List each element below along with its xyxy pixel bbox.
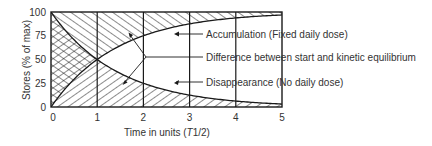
x-tick-label: 3 bbox=[187, 112, 193, 123]
y-axis-tick-labels: 0255075100 bbox=[29, 7, 46, 113]
y-tick-label: 100 bbox=[29, 7, 46, 18]
y-tick-label: 50 bbox=[35, 54, 47, 65]
x-tick-label: 1 bbox=[94, 112, 100, 123]
annotation-disappearance-label: Disappearance (No daily dose) bbox=[206, 77, 343, 88]
y-axis-title: Stores (% of max) bbox=[21, 20, 32, 100]
annotation-difference-label: Difference between start and kinetic equ… bbox=[206, 52, 416, 63]
x-axis-title-part-1: Time in units ( bbox=[124, 127, 187, 138]
x-axis-title: Time in units (T1/2) bbox=[124, 127, 210, 138]
x-tick-label: 0 bbox=[50, 112, 56, 123]
chart: 012345 0255075100 Stores (% of max) Time… bbox=[0, 0, 432, 146]
x-tick-label: 2 bbox=[141, 112, 147, 123]
x-axis-tick-labels: 012345 bbox=[50, 112, 285, 123]
x-tick-label: 4 bbox=[233, 112, 239, 123]
annotation-disappearance: Disappearance (No daily dose) bbox=[174, 77, 343, 88]
x-tick-label: 5 bbox=[279, 112, 285, 123]
arrowhead-icon bbox=[174, 32, 179, 37]
annotation-accumulation-label: Accumulation (Fixed daily dose) bbox=[206, 29, 348, 40]
y-tick-label: 75 bbox=[35, 30, 47, 41]
x-axis-title-part-3: 1/2) bbox=[193, 127, 210, 138]
annotation-accumulation: Accumulation (Fixed daily dose) bbox=[174, 29, 348, 40]
y-tick-label: 25 bbox=[35, 78, 47, 89]
y-tick-label: 0 bbox=[40, 102, 46, 113]
arrowhead-icon bbox=[174, 80, 179, 85]
annotation-difference-lower-arm bbox=[124, 57, 146, 83]
